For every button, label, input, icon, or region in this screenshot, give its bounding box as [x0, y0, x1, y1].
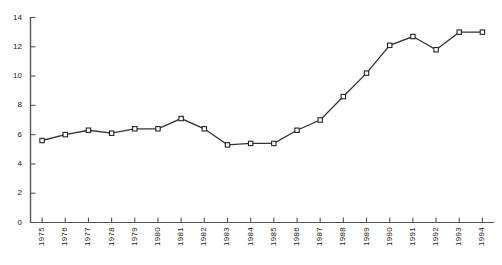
y-tick-label: 14 — [6, 14, 22, 22]
line-chart-canvas — [0, 0, 502, 265]
y-tick-label: 12 — [6, 43, 22, 51]
x-tick-label: 1978 — [108, 227, 116, 246]
x-tick-label: 1979 — [131, 227, 139, 246]
x-tick-label: 1977 — [84, 227, 92, 246]
y-tick-label: 0 — [6, 219, 22, 227]
x-tick-label: 1992 — [432, 227, 440, 246]
x-tick-label: 1975 — [38, 227, 46, 246]
data-point-marker — [341, 94, 345, 98]
y-tick-label: 10 — [6, 72, 22, 80]
x-tick-label: 1985 — [270, 227, 278, 246]
x-tick-label: 1994 — [478, 227, 486, 246]
x-tick-label: 1980 — [154, 227, 162, 246]
y-tick-label: 2 — [6, 189, 22, 197]
y-tick-label: 8 — [6, 101, 22, 109]
y-tick-label: 4 — [6, 160, 22, 168]
x-tick-label: 1987 — [316, 227, 324, 246]
x-tick-label: 1993 — [455, 227, 463, 246]
data-point-marker — [202, 127, 206, 131]
data-point-marker — [40, 138, 44, 142]
series-polyline — [42, 32, 482, 145]
x-tick-label: 1986 — [293, 227, 301, 246]
data-point-marker — [364, 71, 368, 75]
data-point-marker — [179, 116, 183, 120]
data-point-marker — [388, 43, 392, 47]
data-point-marker — [272, 141, 276, 145]
x-tick-label: 1988 — [339, 227, 347, 246]
data-point-marker — [411, 34, 415, 38]
data-point-marker — [225, 143, 229, 147]
data-point-marker — [133, 127, 137, 131]
data-point-marker — [434, 48, 438, 52]
data-point-marker — [156, 127, 160, 131]
x-tick-label: 1990 — [386, 227, 394, 246]
x-tick-label: 1981 — [177, 227, 185, 246]
data-point-marker — [248, 141, 252, 145]
data-point-marker — [457, 30, 461, 34]
data-point-marker — [480, 30, 484, 34]
data-point-marker — [86, 128, 90, 132]
x-tick-label: 1976 — [61, 227, 69, 246]
x-tick-label: 1983 — [223, 227, 231, 246]
data-series-group — [40, 30, 485, 147]
data-point-marker — [63, 132, 67, 136]
x-tick-label: 1989 — [363, 227, 371, 246]
x-axis-ticks — [42, 218, 482, 223]
chart-figure: 02468101214 1975197619771978197919801981… — [0, 0, 502, 265]
data-point-marker — [295, 128, 299, 132]
x-tick-label: 1991 — [409, 227, 417, 246]
x-tick-label: 1982 — [200, 227, 208, 246]
axes-group — [31, 17, 495, 223]
series-markers — [40, 30, 485, 147]
y-axis-ticks — [31, 18, 36, 223]
data-point-marker — [318, 118, 322, 122]
x-tick-label: 1984 — [247, 227, 255, 246]
y-tick-label: 6 — [6, 131, 22, 139]
data-point-marker — [109, 131, 113, 135]
